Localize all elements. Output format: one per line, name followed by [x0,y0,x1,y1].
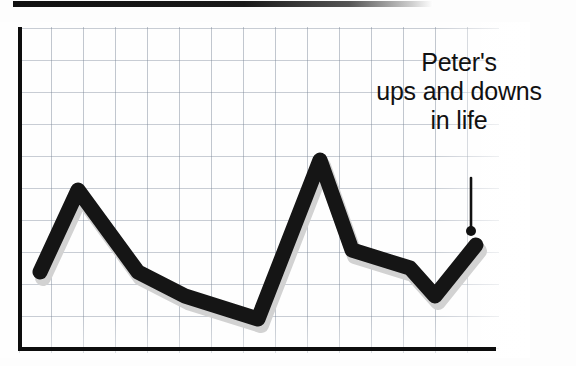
annotation-line-1: Peter's [356,48,562,77]
pointer-dot-icon [466,226,476,236]
data-line [40,160,476,319]
annotation-line-3: in life [356,106,562,135]
annotation-label: Peter's ups and downs in life [356,48,562,135]
annotation-line-2: ups and downs [356,77,562,106]
chart-page: Peter's ups and downs in life [0,0,576,366]
